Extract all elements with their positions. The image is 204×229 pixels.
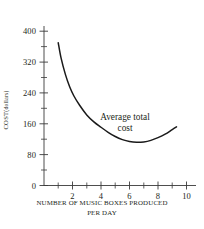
y-tick-label-320: 320	[0, 57, 36, 67]
y-tick-label-0: 0	[0, 181, 36, 191]
curve-annotation-line2: cost	[94, 123, 156, 134]
x-axis-title-line1: NUMBER OF MUSIC BOXES PRODUCED	[0, 198, 204, 208]
y-tick-label-400: 400	[0, 26, 36, 36]
y-axis-title-unit: (dollars)	[3, 90, 9, 111]
y-axis-title: COST(dollars)	[2, 90, 9, 129]
curve-annotation-average-total-cost: Average total cost	[94, 112, 156, 133]
figure-average-total-cost: 0 80 160 240 320 400 2 4 6 8 10 COST(dol…	[0, 0, 204, 229]
y-axis-title-main: COST	[2, 112, 9, 130]
x-axis-title-line2: PER DAY	[0, 208, 204, 218]
y-tick-label-80: 80	[0, 150, 36, 160]
curve-annotation-line1: Average total	[100, 112, 150, 122]
x-axis-title: NUMBER OF MUSIC BOXES PRODUCED PER DAY	[0, 198, 204, 217]
